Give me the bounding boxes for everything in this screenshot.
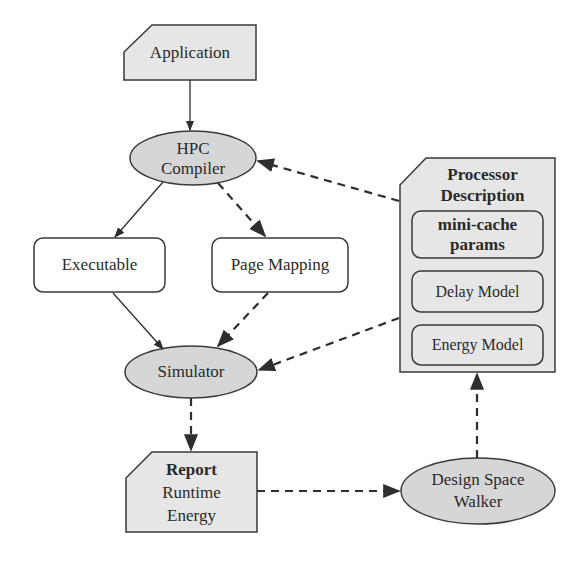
simulator-label: Simulator xyxy=(157,362,224,382)
processor-description-title: Processor Description xyxy=(410,160,555,210)
energy-model-node: Energy Model xyxy=(412,325,543,365)
design-space-walker-node: Design Space Walker xyxy=(401,458,555,524)
mini-cache-line1: mini-cache xyxy=(438,215,517,235)
edge-processor-to-simulator xyxy=(259,318,399,370)
mini-cache-line2: params xyxy=(450,235,505,255)
walker-line2: Walker xyxy=(454,491,503,513)
application-node: Application xyxy=(124,25,256,80)
report-line3: Energy xyxy=(167,504,216,527)
edge-executable-to-simulator xyxy=(113,293,163,349)
executable-node: Executable xyxy=(34,238,165,292)
hpc-compiler-line2: Compiler xyxy=(161,159,225,179)
processor-line2: Description xyxy=(440,185,524,206)
edge-pagemapping-to-simulator xyxy=(218,293,268,346)
edge-processor-to-compiler xyxy=(258,161,399,201)
delay-model-node: Delay Model xyxy=(412,271,543,312)
executable-label: Executable xyxy=(62,255,138,275)
hpc-compiler-node: HPC Compiler xyxy=(130,132,256,185)
edge-compiler-to-pagemapping xyxy=(218,183,265,236)
application-label: Application xyxy=(150,43,230,63)
page-mapping-label: Page Mapping xyxy=(231,255,330,275)
report-title: Report xyxy=(166,458,217,481)
report-node: Report Runtime Energy xyxy=(126,452,257,532)
simulator-node: Simulator xyxy=(125,346,257,398)
energy-model-label: Energy Model xyxy=(432,335,524,355)
hpc-compiler-line1: HPC xyxy=(176,139,209,159)
edge-compiler-to-executable xyxy=(115,182,163,237)
processor-line1: Processor xyxy=(447,164,518,185)
walker-line1: Design Space xyxy=(431,469,524,491)
mini-cache-params-node: mini-cache params xyxy=(412,211,543,258)
delay-model-label: Delay Model xyxy=(436,282,520,302)
page-mapping-node: Page Mapping xyxy=(212,238,348,292)
report-line2: Runtime xyxy=(162,481,221,504)
